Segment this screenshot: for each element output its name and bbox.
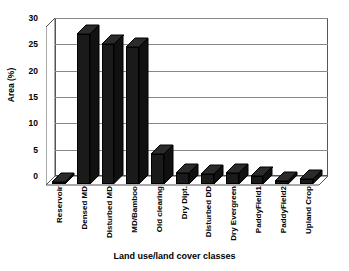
x-tick-label: PaddyField1 (254, 186, 263, 252)
y-tick-label: 0 (20, 172, 38, 180)
bar-side-face (164, 145, 175, 186)
bar-1 (77, 34, 90, 184)
x-tick-label: Old clearing (155, 186, 164, 252)
bar-front-face (77, 34, 90, 184)
bar-2 (102, 44, 115, 184)
bar-0 (52, 182, 65, 184)
y-tick-label: 10 (20, 119, 38, 127)
x-tick-label: PaddyField2 (279, 186, 288, 252)
bars-layer (46, 18, 328, 193)
bar-side-face (313, 170, 324, 186)
y-tick-label: 30 (20, 14, 38, 22)
bar-7 (226, 173, 239, 184)
x-tick-label: Reservoir (55, 186, 64, 252)
bar-8 (251, 176, 264, 184)
x-tick-label: Dry Evergreen (229, 186, 238, 252)
bar-5 (176, 173, 189, 184)
bar-front-face (151, 154, 164, 184)
bar-side-face (189, 164, 200, 186)
bar-side-face (139, 38, 150, 186)
bar-side-face (214, 165, 225, 186)
y-tick-label: 5 (20, 146, 38, 154)
bar-6 (201, 174, 214, 184)
y-axis-title: Area (%) (6, 50, 16, 120)
bar-side-face (288, 172, 299, 186)
x-axis-title: Land use/land cover classes (0, 251, 349, 261)
bar-chart: Area (%) 051015202530 ReservoirDensed MD… (0, 0, 349, 271)
x-tick-label: Disturbed MD (105, 186, 114, 252)
bar-10 (300, 179, 313, 184)
bar-3 (126, 47, 139, 184)
bar-front-face (102, 44, 115, 184)
bar-side-face (263, 167, 274, 186)
bar-4 (151, 154, 164, 184)
y-tick-label: 25 (20, 40, 38, 48)
y-tick-label: 20 (20, 67, 38, 75)
x-tick-label: Upland Crop (304, 186, 313, 252)
x-tick-label: Densed MD (80, 186, 89, 252)
bar-side-face (65, 173, 76, 186)
bar-9 (275, 181, 288, 184)
x-tick-label: Dry Dipt. (180, 186, 189, 252)
bar-side-face (239, 164, 250, 186)
bar-side-face (114, 35, 125, 186)
y-tick-label: 15 (20, 93, 38, 101)
x-tick-label: Disturbed DD (204, 186, 213, 252)
x-axis-ticks: ReservoirDensed MDDisturbed MDMD/BambooO… (46, 186, 328, 256)
bar-side-face (90, 25, 101, 186)
x-tick-label: MD/Bamboo (130, 186, 139, 252)
bar-front-face (126, 47, 139, 184)
y-axis-ticks: 051015202530 (16, 0, 38, 271)
